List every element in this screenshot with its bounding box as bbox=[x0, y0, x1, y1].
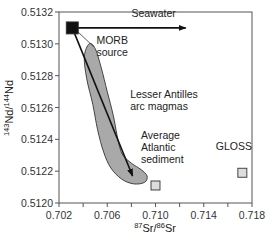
y-title-sup2: 144 bbox=[2, 94, 11, 107]
isotope-chart: 0.7020.7060.7100.7140.718 0.51200.51220.… bbox=[0, 0, 270, 239]
x-tick-label: 0.702 bbox=[46, 209, 72, 221]
x-title-base1: Sr/ bbox=[142, 222, 157, 234]
annotation-line: Average bbox=[141, 129, 180, 141]
y-tick-label: 0.5130 bbox=[21, 38, 53, 50]
annotation-line: arc magmas bbox=[130, 100, 188, 112]
y-tick-label: 0.5132 bbox=[21, 6, 53, 18]
seawater-label: Seawater bbox=[131, 7, 176, 19]
annotation-line: MORB bbox=[96, 34, 128, 46]
annotations-layer: SeawaterMORBsourceLesser Antillesarc mag… bbox=[96, 7, 252, 166]
y-tick-label: 0.5126 bbox=[21, 102, 53, 114]
x-tick-label: 0.718 bbox=[239, 209, 265, 221]
x-title-sup2: 86 bbox=[157, 221, 165, 230]
y-tick-label: 0.5120 bbox=[21, 197, 53, 209]
annotation-line: Seawater bbox=[131, 7, 176, 19]
gloss-label: GLOSS bbox=[216, 140, 252, 152]
y-axis-title: 143Nd/144Nd bbox=[2, 80, 15, 136]
morb-label: MORBsource bbox=[96, 34, 128, 58]
y-title-base2: Nd bbox=[3, 80, 15, 94]
field-layer bbox=[84, 43, 147, 184]
lesser-antilles-field bbox=[84, 43, 147, 184]
y-tick-label: 0.5122 bbox=[21, 165, 53, 177]
annotation-line: sediment bbox=[141, 153, 184, 165]
x-tick-label: 0.706 bbox=[94, 209, 120, 221]
annotation-line: Lesser Antilles bbox=[130, 88, 198, 100]
y-title-sup1: 143 bbox=[2, 124, 11, 137]
atlantic-label: AverageAtlanticsediment bbox=[141, 129, 184, 165]
x-title-base2: Sr bbox=[165, 222, 176, 234]
y-title-base1: Nd/ bbox=[3, 106, 15, 124]
y-axis: 0.51200.51220.51240.51260.51280.51300.51… bbox=[21, 6, 59, 209]
morb-source-point bbox=[66, 22, 78, 34]
y-tick-label: 0.5124 bbox=[21, 133, 53, 145]
gloss-point bbox=[238, 168, 247, 177]
x-title-sup1: 87 bbox=[134, 221, 142, 230]
x-tick-label: 0.714 bbox=[191, 209, 217, 221]
x-tick-label: 0.710 bbox=[142, 209, 168, 221]
antilles-label: Lesser Antillesarc magmas bbox=[130, 88, 198, 112]
annotation-line: Atlantic bbox=[141, 141, 175, 153]
y-tick-label: 0.5128 bbox=[21, 70, 53, 82]
annotation-line: GLOSS bbox=[216, 140, 252, 152]
average-atlantic-sediment-point bbox=[151, 181, 160, 190]
annotation-line: source bbox=[96, 46, 128, 58]
x-axis: 0.7020.7060.7100.7140.718 bbox=[46, 203, 265, 221]
x-axis-title: 87Sr/86Sr bbox=[134, 221, 176, 234]
